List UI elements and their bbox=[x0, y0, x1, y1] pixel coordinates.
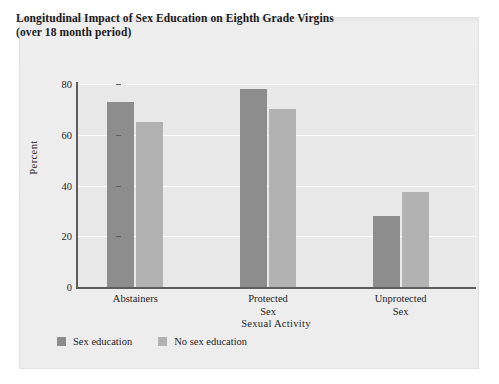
bar bbox=[136, 122, 163, 287]
y-axis-ticks: 020406080 bbox=[44, 0, 72, 384]
x-tick-label: Abstainers bbox=[75, 293, 195, 306]
y-tick-mark bbox=[116, 287, 121, 288]
y-tick-label: 40 bbox=[46, 180, 72, 191]
legend-item-sex-education: Sex education bbox=[57, 336, 132, 347]
legend-label: Sex education bbox=[73, 336, 132, 347]
legend-swatch-icon bbox=[57, 337, 66, 346]
y-tick-label: 20 bbox=[46, 231, 72, 242]
y-tick-label: 80 bbox=[46, 79, 72, 90]
y-tick-mark bbox=[116, 135, 121, 136]
chart-subtitle: (over 18 month period) bbox=[16, 26, 436, 40]
y-tick-label: 60 bbox=[46, 129, 72, 140]
y-tick-mark bbox=[116, 186, 121, 187]
bar bbox=[240, 89, 267, 287]
y-axis-label: Percent bbox=[28, 113, 39, 203]
legend-label: No sex education bbox=[174, 336, 247, 347]
chart-title: Longitudinal Impact of Sex Education on … bbox=[16, 12, 436, 26]
x-axis-line bbox=[76, 287, 476, 289]
chart-legend: Sex education No sex education bbox=[57, 336, 247, 347]
y-tick-mark bbox=[116, 236, 121, 237]
chart-title-block: Longitudinal Impact of Sex Education on … bbox=[16, 12, 436, 39]
chart-figure: Longitudinal Impact of Sex Education on … bbox=[0, 0, 499, 384]
x-tick-label: UnprotectedSex bbox=[341, 293, 461, 318]
plot-area bbox=[77, 84, 475, 287]
x-axis-label: Sexual Activity bbox=[77, 318, 475, 329]
bar bbox=[269, 109, 296, 287]
x-tick-label: ProtectedSex bbox=[208, 293, 328, 318]
y-tick-mark bbox=[116, 84, 121, 85]
bar bbox=[107, 102, 134, 287]
gridline bbox=[77, 84, 475, 85]
bar bbox=[402, 192, 429, 287]
legend-swatch-icon bbox=[158, 337, 167, 346]
y-axis-line bbox=[76, 82, 78, 289]
legend-item-no-sex-education: No sex education bbox=[158, 336, 247, 347]
y-tick-label: 0 bbox=[46, 282, 72, 293]
bar bbox=[373, 216, 400, 287]
